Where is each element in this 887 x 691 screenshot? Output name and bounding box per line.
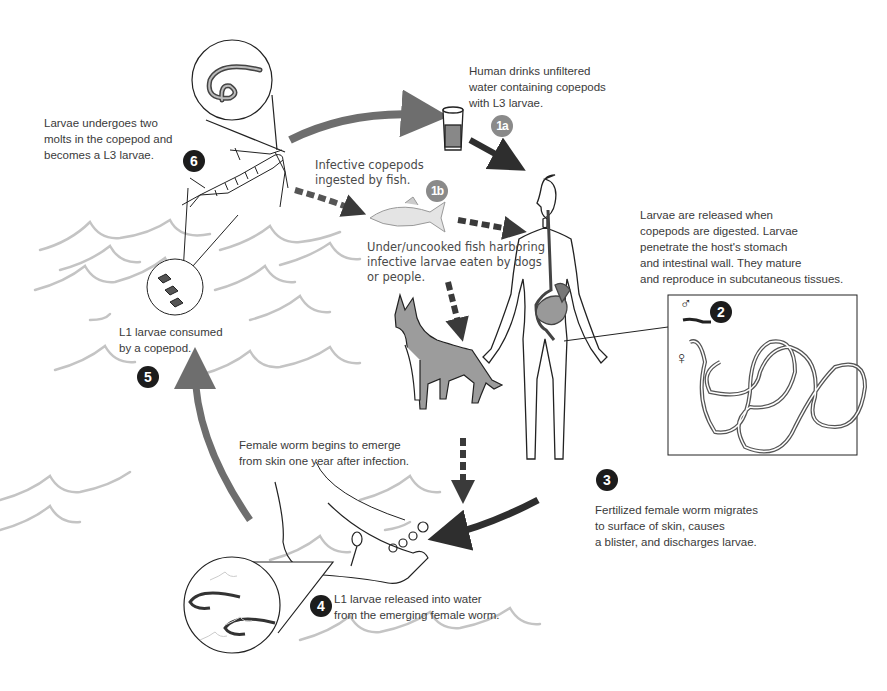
arrow-copepod-to-fish <box>295 190 355 210</box>
stage-1a-label: Human drinks unfiltered water containing… <box>469 63 606 111</box>
stage-6-badge: 6 <box>183 150 205 172</box>
female-symbol: ♀ <box>675 348 689 369</box>
stage-3-badge: 3 <box>596 469 618 491</box>
stage-5-badge: 5 <box>137 366 159 388</box>
fish-illustration <box>370 197 445 232</box>
stage-2-label: Larvae are released when copepods are di… <box>640 207 843 287</box>
stage-5-label: L1 larvae consumed by a copepod. <box>119 324 223 356</box>
arrow-human-to-foot <box>448 500 538 535</box>
arrow-6-to-1a <box>290 114 425 140</box>
stage-1a-badge: 1a <box>491 115 513 137</box>
arrow-fish-to-dog <box>448 282 460 330</box>
dog-illustration <box>395 295 502 409</box>
arrow-fish-to-human <box>458 220 515 230</box>
emerge-label: Female worm begins to emerge from skin o… <box>239 437 409 469</box>
adult-worms-box <box>668 295 865 455</box>
stage-1b-badge: 1b <box>426 180 448 202</box>
fish-eaten-label: Under/uncooked fish harboring infective … <box>367 240 545 285</box>
life-cycle-diagram: Larvae undergoes two molts in the copepo… <box>0 0 887 691</box>
stage-3-label: Fertilized female worm migrates to surfa… <box>595 502 758 550</box>
stage-6-label: Larvae undergoes two molts in the copepo… <box>44 115 173 163</box>
l3-larva-zoom <box>192 40 285 152</box>
stage-4-label: L1 larvae released into water from the e… <box>334 591 500 623</box>
stage-4-badge: 4 <box>310 595 332 617</box>
stage-2-badge: 2 <box>710 301 732 323</box>
water-glass-icon <box>443 107 463 150</box>
male-symbol: ♂ <box>680 295 692 313</box>
arrow-1a-to-human <box>470 140 510 162</box>
stage-1b-label: Infective copepods ingested by fish. <box>315 158 424 188</box>
human-body-illustration <box>483 175 607 459</box>
zoom-lines <box>147 188 238 315</box>
